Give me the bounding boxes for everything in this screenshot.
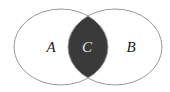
intersection-label: C <box>82 39 93 55</box>
set-a-label: A <box>45 39 56 55</box>
set-b-label: B <box>126 39 135 55</box>
venn-diagram: A C B <box>0 0 170 92</box>
